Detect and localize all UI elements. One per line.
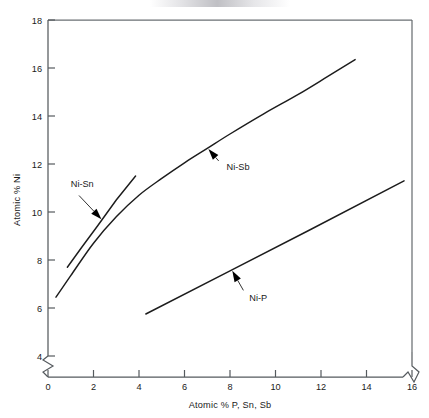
x-axis-ticks: [48, 370, 412, 377]
y-ticklabel-8: 8: [37, 256, 42, 266]
series-label-ni-sn: Ni-Sn: [71, 179, 94, 189]
annotation-ni-sb: Ni-Sb: [208, 149, 249, 172]
plot-frame: [43, 20, 419, 382]
annotation-group: Ni-Sn Ni-Sb Ni-P: [71, 149, 267, 303]
annotation-ni-sn: Ni-Sn: [71, 179, 102, 219]
data-series-group: [56, 60, 404, 314]
x-ticklabel-6: 6: [182, 382, 187, 392]
leader-line-ni-p: [238, 280, 244, 290]
y-ticklabel-16: 16: [32, 64, 42, 74]
y-ticklabel-4: 4: [37, 352, 42, 362]
x-ticklabel-8: 8: [227, 382, 232, 392]
y-ticklabel-12: 12: [32, 160, 42, 170]
x-ticklabel-0: 0: [45, 382, 50, 392]
x-ticklabel-10: 10: [270, 382, 280, 392]
arrowhead-ni-p: [232, 271, 241, 282]
x-axis-break-icon: [403, 352, 419, 382]
x-ticklabel-12: 12: [316, 382, 326, 392]
x-ticklabel-16: 16: [407, 382, 417, 392]
y-axis-title: Atomic % Ni: [12, 174, 22, 226]
series-line-ni-sb: [56, 60, 355, 298]
x-ticklabel-14: 14: [361, 382, 371, 392]
y-axis-ticks: [48, 20, 55, 356]
y-axis-tick-labels: 18 16 14 12 10 8 6 4: [32, 16, 42, 362]
y-ticklabel-14: 14: [32, 112, 42, 122]
leader-line-ni-sb: [216, 157, 219, 161]
leader-line-ni-sn: [79, 196, 94, 212]
x-axis-title: Atomic % P, Sn, Sb: [189, 400, 272, 410]
series-line-ni-p: [146, 181, 404, 314]
annotation-ni-p: Ni-P: [232, 271, 267, 303]
chart-svg: 18 16 14 12 10 8 6 4 0 2 4 6 8: [0, 0, 429, 418]
x-axis-tick-labels: 0 2 4 6 8 10 12 14 16: [45, 382, 417, 392]
y-ticklabel-18: 18: [32, 16, 42, 26]
series-label-ni-sb: Ni-Sb: [227, 162, 250, 172]
y-ticklabel-10: 10: [32, 208, 42, 218]
x-ticklabel-2: 2: [91, 382, 96, 392]
figure-container: 18 16 14 12 10 8 6 4 0 2 4 6 8: [0, 0, 429, 418]
y-ticklabel-6: 6: [37, 304, 42, 314]
series-label-ni-p: Ni-P: [249, 293, 267, 303]
series-line-ni-sn: [67, 176, 135, 267]
x-ticklabel-4: 4: [136, 382, 141, 392]
